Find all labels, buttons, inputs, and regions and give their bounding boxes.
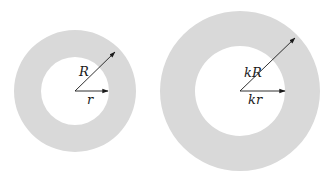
label-R: R bbox=[78, 64, 89, 79]
large-annulus: kR kr bbox=[160, 11, 320, 171]
small-annulus: R r bbox=[14, 30, 136, 152]
label-kr: kr bbox=[248, 92, 263, 107]
label-r: r bbox=[87, 92, 94, 107]
annulus-scaling-diagram: R r kR kr bbox=[0, 0, 335, 175]
label-kR: kR bbox=[244, 65, 262, 80]
